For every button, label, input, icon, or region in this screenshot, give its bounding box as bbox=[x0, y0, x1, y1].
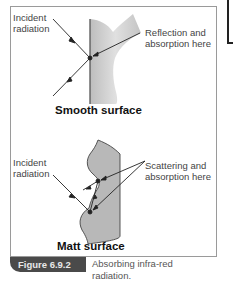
smooth-incident-label: Incident radiation bbox=[13, 12, 49, 34]
matt-incident-label: Incident radiation bbox=[13, 157, 49, 179]
figure-number-tab: Figure 6.9.2 bbox=[10, 257, 86, 272]
matt-surface-title: Matt surface bbox=[57, 240, 125, 252]
scattering-label: Scattering and absorption here bbox=[145, 160, 211, 182]
smooth-surface-title: Smooth surface bbox=[55, 104, 142, 116]
reflection-label: Reflection and absorption here bbox=[145, 27, 211, 49]
figure-caption: Absorbing infra-red radiation. bbox=[92, 258, 212, 282]
matt-surface-shape bbox=[80, 140, 120, 244]
smooth-surface-shape bbox=[90, 14, 141, 104]
